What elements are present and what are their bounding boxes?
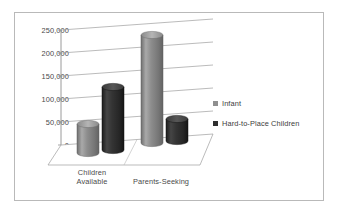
- gridline-250000: [61, 19, 213, 30]
- gridline-100000: [61, 88, 213, 99]
- bar-hardtoplace-parents-seeking: [166, 115, 188, 144]
- legend-item-infant: Infant: [213, 99, 325, 108]
- legend-label-infant: Infant: [222, 99, 241, 108]
- bar-chart-3d: 250,000 200,000 150,000 100,000 50,000 0: [15, 13, 325, 202]
- legend-label-hard-to-place-children: Hard-to-Place Children: [222, 119, 299, 128]
- category-label-children-available: Children Available: [63, 168, 121, 186]
- category-label-parents-seeking: Parents-Seeking: [119, 177, 203, 186]
- gridline-200000: [61, 42, 213, 53]
- legend-item-hard-to-place-children: Hard-to-Place Children: [213, 119, 325, 128]
- gridline-150000: [61, 65, 213, 76]
- bar-infant-parents-seeking: [141, 31, 163, 146]
- bar-infant-children-available: [77, 120, 99, 156]
- legend-swatch-infant: [213, 101, 218, 106]
- gridline-50000: [61, 111, 213, 122]
- chart-legend: Infant Hard-to-Place Children: [213, 99, 325, 139]
- chart-screenshot: 250,000 200,000 150,000 100,000 50,000 0: [0, 0, 338, 214]
- gridlines: [61, 19, 213, 122]
- legend-swatch-hard-to-place-children: [213, 121, 218, 126]
- chart-frame: 250,000 200,000 150,000 100,000 50,000 0: [14, 12, 324, 201]
- bar-hardtoplace-children-available: [102, 83, 124, 153]
